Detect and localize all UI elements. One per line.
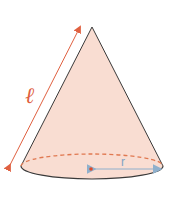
cone-body bbox=[21, 27, 163, 179]
cone-diagram: ℓ r bbox=[0, 0, 178, 206]
radius-label: r bbox=[121, 155, 125, 169]
base-center-point bbox=[89, 167, 93, 171]
cone-svg: ℓ r bbox=[0, 0, 178, 206]
slant-height-label: ℓ bbox=[25, 83, 35, 108]
